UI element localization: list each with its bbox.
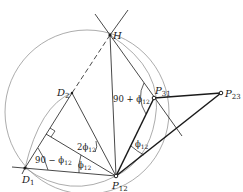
line-h-p12 xyxy=(110,35,116,176)
angle-label-90-plus-phi: 90 + ϕ12 xyxy=(113,94,150,105)
label-p31: P31 xyxy=(154,85,171,98)
angle-label-phi-left: ϕ12 xyxy=(78,160,92,171)
label-p12: P12 xyxy=(111,180,128,192)
label-p23: P23 xyxy=(224,88,241,101)
point-p23 xyxy=(219,91,223,95)
point-p12 xyxy=(114,174,118,178)
edge-p12-p31 xyxy=(116,98,154,176)
angle-label-2phi: 2ϕ12 xyxy=(77,142,96,153)
arc-d1-p12 xyxy=(25,168,116,186)
angle-label-phi-right: ϕ12 xyxy=(135,139,149,150)
label-h: H xyxy=(112,30,122,41)
geometry-diagram: H D2 D1 P12 P31 P23 90 + ϕ12 2ϕ12 90 − ϕ… xyxy=(0,0,243,192)
point-d1 xyxy=(23,166,26,169)
angle-label-90-minus-phi: 90 − ϕ12 xyxy=(35,155,72,166)
line-h-p31 xyxy=(110,35,182,136)
line-h-upper-left xyxy=(95,14,110,35)
point-h xyxy=(108,33,111,36)
right-angle-marker xyxy=(50,128,55,137)
label-d1: D1 xyxy=(21,174,35,187)
point-p31 xyxy=(152,96,156,100)
line-h-d2-dashed xyxy=(72,35,110,93)
point-d2 xyxy=(71,92,73,94)
